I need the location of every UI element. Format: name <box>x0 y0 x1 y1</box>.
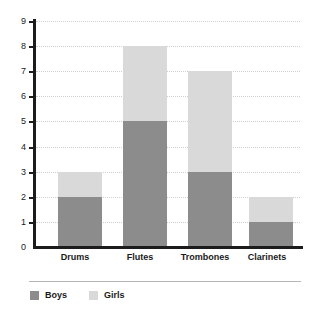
gridline-4 <box>36 147 300 148</box>
y-tick-label-8: 8 <box>0 42 26 51</box>
bar-group-drums <box>58 172 102 247</box>
legend-item-boys: Boys <box>30 291 67 300</box>
legend-swatch-boys <box>30 291 39 300</box>
y-tick-label-1: 1 <box>0 218 26 227</box>
y-tick-label-0: 0 <box>0 243 26 252</box>
y-axis-line <box>33 19 36 249</box>
legend-label-boys: Boys <box>45 291 67 300</box>
plot-area <box>36 21 300 247</box>
y-tick-mark-1 <box>29 222 34 224</box>
legend-label-girls: Girls <box>104 291 125 300</box>
bar-segment-boys-drums <box>58 197 102 247</box>
y-tick-label-2: 2 <box>0 193 26 202</box>
legend-item-girls: Girls <box>89 291 125 300</box>
y-tick-label-5: 5 <box>0 117 26 126</box>
y-tick-mark-2 <box>29 197 34 199</box>
gridline-7 <box>36 71 300 72</box>
legend-swatch-girls <box>89 291 98 300</box>
legend-separator <box>29 281 301 282</box>
bar-segment-boys-trombones <box>188 172 232 247</box>
gridline-9 <box>36 21 300 22</box>
y-tick-label-6: 6 <box>0 92 26 101</box>
y-tick-label-3: 3 <box>0 168 26 177</box>
legend: Boys Girls <box>30 291 125 300</box>
bar-segment-girls-clarinets <box>249 197 293 222</box>
gridline-5 <box>36 121 300 122</box>
y-tick-mark-9 <box>29 21 34 23</box>
y-tick-mark-6 <box>29 96 34 98</box>
bar-group-trombones <box>188 71 232 247</box>
x-tick-label-trombones: Trombones <box>174 252 236 263</box>
gridline-6 <box>36 96 300 97</box>
bar-group-flutes <box>123 46 167 247</box>
y-tick-label-4: 4 <box>0 143 26 152</box>
x-axis-line <box>33 246 303 249</box>
y-tick-mark-4 <box>29 147 34 149</box>
y-tick-mark-8 <box>29 46 34 48</box>
bar-segment-girls-trombones <box>188 71 232 171</box>
y-tick-mark-7 <box>29 71 34 73</box>
stacked-bar-chart: 9 8 7 6 5 4 3 2 1 0 Drums Flutes Trombon… <box>0 0 314 319</box>
gridline-8 <box>36 46 300 47</box>
x-tick-label-flutes: Flutes <box>113 252 167 263</box>
x-tick-label-clarinets: Clarinets <box>238 252 296 263</box>
y-tick-mark-5 <box>29 121 34 123</box>
y-tick-label-9: 9 <box>0 17 26 26</box>
x-tick-label-drums: Drums <box>48 252 102 263</box>
y-tick-mark-3 <box>29 172 34 174</box>
bar-segment-boys-flutes <box>123 121 167 247</box>
bar-segment-girls-flutes <box>123 46 167 121</box>
bar-segment-girls-drums <box>58 172 102 197</box>
y-tick-label-7: 7 <box>0 67 26 76</box>
bar-segment-boys-clarinets <box>249 222 293 247</box>
bar-group-clarinets <box>249 197 293 247</box>
